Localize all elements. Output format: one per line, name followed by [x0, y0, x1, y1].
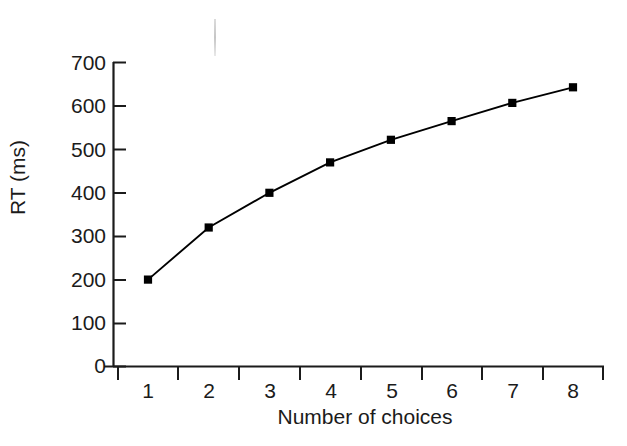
- data-point-marker-6: [448, 117, 456, 125]
- data-point-marker-1: [144, 276, 152, 284]
- data-point-marker-3: [265, 189, 273, 197]
- data-point-marker-2: [205, 223, 213, 231]
- plot-area: [0, 0, 627, 446]
- data-point-marker-4: [326, 158, 334, 166]
- x-axis-ticks: [118, 367, 603, 380]
- data-series-rt: [144, 83, 577, 284]
- series-markers: [144, 83, 577, 284]
- chart-figure: RT (ms) Number of choices 700 600 500 40…: [0, 0, 627, 446]
- data-point-marker-5: [387, 136, 395, 144]
- y-axis-ticks: [104, 63, 126, 367]
- series-line: [148, 87, 573, 279]
- data-point-marker-7: [508, 99, 516, 107]
- data-point-marker-8: [569, 83, 577, 91]
